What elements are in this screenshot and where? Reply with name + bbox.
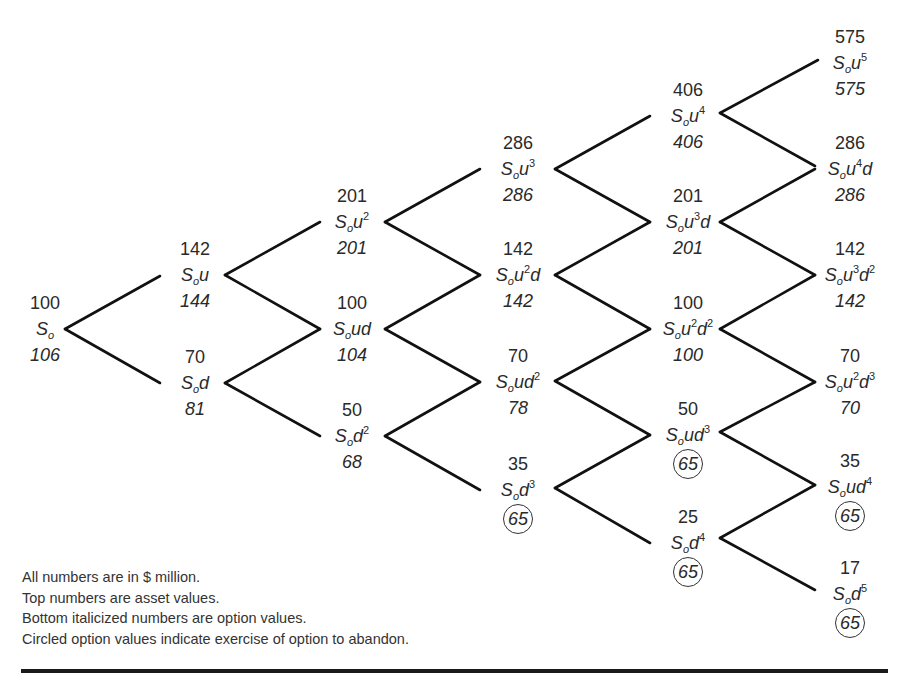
option-value-circled: 65: [463, 503, 573, 534]
option-value-text: 286: [503, 185, 533, 205]
option-value: 104: [297, 342, 407, 368]
tree-node: 70Sod81: [140, 344, 250, 422]
node-label: Sou: [140, 262, 250, 288]
node-label: Sou3: [463, 156, 573, 182]
node-label: Sou2d3: [795, 369, 905, 395]
tree-node: 406Sou4406: [633, 77, 743, 155]
option-value-text: 65: [673, 449, 703, 479]
asset-value: 575: [795, 24, 905, 50]
legend-notes: All numbers are in $ million. Top number…: [22, 567, 409, 649]
option-value-text: 201: [337, 238, 367, 258]
asset-value: 70: [140, 344, 250, 370]
tree-node: 142Sou3d2142: [795, 236, 905, 314]
option-value: 106: [0, 342, 100, 368]
asset-value: 100: [297, 290, 407, 316]
option-value-text: 106: [30, 345, 60, 365]
node-label: Sou5: [795, 50, 905, 76]
note-units: All numbers are in $ million.: [22, 567, 409, 588]
node-label: Sod2: [297, 423, 407, 449]
tree-node: 142Sou144: [140, 236, 250, 314]
option-value-text: 142: [503, 291, 533, 311]
asset-value: 142: [795, 236, 905, 262]
tree-node: 100So106: [0, 290, 100, 368]
note-circled-values: Circled option values indicate exercise …: [22, 629, 409, 650]
option-value-text: 406: [673, 132, 703, 152]
option-value: 100: [633, 342, 743, 368]
tree-node: 286Sou4d286: [795, 130, 905, 208]
node-label: Sou3d: [633, 209, 743, 235]
tree-node: 201Sou2201: [297, 183, 407, 261]
asset-value: 17: [795, 555, 905, 581]
option-value-text: 144: [180, 291, 210, 311]
asset-value: 25: [633, 504, 743, 530]
asset-value: 50: [633, 396, 743, 422]
tree-node: 575Sou5575: [795, 24, 905, 102]
tree-node: 50Sod268: [297, 397, 407, 475]
node-label: Soud2: [463, 369, 573, 395]
option-value-circled: 65: [795, 500, 905, 531]
node-label: So: [0, 316, 100, 342]
asset-value: 35: [795, 448, 905, 474]
tree-node: 201Sou3d201: [633, 183, 743, 261]
node-label: Sou2d: [463, 262, 573, 288]
tree-node: 142Sou2d142: [463, 236, 573, 314]
option-value-text: 68: [342, 452, 362, 472]
node-label: Sou2: [297, 209, 407, 235]
asset-value: 142: [140, 236, 250, 262]
tree-node: 100Sou2d2100: [633, 290, 743, 368]
option-value-circled: 65: [633, 556, 743, 587]
option-value: 406: [633, 129, 743, 155]
option-value-text: 201: [673, 238, 703, 258]
tree-node: 70Soud278: [463, 343, 573, 421]
asset-value: 201: [297, 183, 407, 209]
option-value: 142: [795, 288, 905, 314]
option-value: 201: [633, 235, 743, 261]
option-value-circled: 65: [795, 607, 905, 638]
option-value-text: 142: [835, 291, 865, 311]
option-value-circled: 65: [633, 448, 743, 479]
asset-value: 70: [795, 343, 905, 369]
note-asset-values: Top numbers are asset values.: [22, 588, 409, 609]
note-option-values: Bottom italicized numbers are option val…: [22, 608, 409, 629]
option-value: 286: [463, 182, 573, 208]
tree-node: 286Sou3286: [463, 130, 573, 208]
node-label: Soud: [297, 316, 407, 342]
tree-node: 35Sod365: [463, 451, 573, 534]
node-label: Sod3: [463, 477, 573, 503]
asset-value: 100: [633, 290, 743, 316]
tree-node: 25Sod465: [633, 504, 743, 587]
asset-value: 142: [463, 236, 573, 262]
node-label: Sod: [140, 370, 250, 396]
option-value-text: 575: [835, 79, 865, 99]
node-label: Soud4: [795, 474, 905, 500]
node-label: Sou4d: [795, 156, 905, 182]
tree-node: 50Soud365: [633, 396, 743, 479]
tree-node: 100Soud104: [297, 290, 407, 368]
option-value: 201: [297, 235, 407, 261]
option-value-text: 70: [840, 398, 860, 418]
option-value: 144: [140, 288, 250, 314]
bottom-rule: [21, 669, 888, 673]
option-value-text: 100: [673, 345, 703, 365]
option-value: 78: [463, 395, 573, 421]
option-value-text: 65: [503, 504, 533, 534]
option-value: 70: [795, 395, 905, 421]
tree-node: 70Sou2d370: [795, 343, 905, 421]
asset-value: 286: [463, 130, 573, 156]
option-value-text: 81: [185, 399, 205, 419]
asset-value: 201: [633, 183, 743, 209]
option-value: 81: [140, 396, 250, 422]
option-value: 68: [297, 449, 407, 475]
node-label: Sou3d2: [795, 262, 905, 288]
option-value-text: 104: [337, 345, 367, 365]
asset-value: 35: [463, 451, 573, 477]
option-value-text: 65: [835, 608, 865, 638]
node-label: Sou2d2: [633, 316, 743, 342]
node-label: Soud3: [633, 422, 743, 448]
option-value-text: 65: [673, 557, 703, 587]
option-value: 286: [795, 182, 905, 208]
node-label: Sou4: [633, 103, 743, 129]
asset-value: 50: [297, 397, 407, 423]
option-value-text: 286: [835, 185, 865, 205]
asset-value: 100: [0, 290, 100, 316]
